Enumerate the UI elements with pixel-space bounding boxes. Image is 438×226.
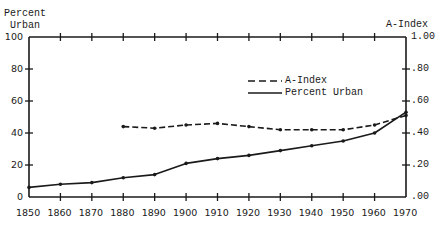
x-tick-label: 1950 (330, 207, 354, 218)
data-point (184, 162, 188, 166)
data-point (153, 173, 157, 177)
x-tick-label: 1970 (393, 207, 417, 218)
left-y-tick-label: 60 (11, 95, 23, 106)
x-tick-label: 1870 (79, 207, 103, 218)
right-y-tick-label: .40 (411, 127, 429, 138)
data-point (373, 131, 377, 135)
right-y-tick-label: .20 (411, 159, 429, 170)
x-tick-label: 1850 (16, 207, 40, 218)
data-point (279, 149, 283, 153)
data-point (184, 123, 188, 127)
line-chart (0, 0, 438, 226)
data-point (247, 125, 251, 129)
x-tick-label: 1860 (47, 207, 71, 218)
left-axis-title-line2: Urban (10, 20, 40, 31)
plot-frame (25, 33, 410, 201)
data-point (153, 126, 157, 130)
data-point (27, 186, 31, 190)
data-point (247, 154, 251, 158)
left-y-tick-label: 80 (11, 63, 23, 74)
data-point (121, 125, 125, 129)
a-index-line (123, 115, 406, 129)
x-tick-label: 1890 (142, 207, 166, 218)
data-point (373, 123, 377, 127)
right-y-tick-label: .00 (411, 191, 429, 202)
x-tick-label: 1930 (267, 207, 291, 218)
data-point (90, 181, 94, 185)
x-tick-label: 1900 (173, 207, 197, 218)
data-point (310, 144, 314, 148)
x-tick-label: 1960 (362, 207, 386, 218)
data-point (404, 110, 408, 114)
data-point (341, 128, 345, 132)
x-tick-label: 1910 (205, 207, 229, 218)
data-point (310, 128, 314, 132)
x-tick-label: 1940 (299, 207, 323, 218)
right-axis-title: A-Index (386, 19, 428, 30)
data-point (121, 176, 125, 180)
right-y-tick-label: .60 (411, 95, 429, 106)
data-point (341, 139, 345, 143)
data-point (279, 128, 283, 132)
series-layer (27, 110, 408, 189)
left-axis-title-line1: Percent (4, 8, 46, 19)
data-point (404, 114, 408, 118)
data-point (59, 182, 63, 186)
x-tick-label: 1920 (236, 207, 260, 218)
data-point (216, 157, 220, 161)
right-y-tick-label: .80 (411, 63, 429, 74)
data-point (216, 122, 220, 126)
legend-a-index-label: A-Index (285, 75, 327, 86)
legend-swatches (248, 81, 282, 93)
left-y-tick-label: 0 (17, 191, 23, 202)
left-y-tick-label: 20 (11, 159, 23, 170)
left-y-tick-label: 100 (5, 31, 23, 42)
legend-percent-urban-label: Percent Urban (285, 87, 363, 98)
left-y-tick-label: 40 (11, 127, 23, 138)
x-tick-label: 1880 (110, 207, 134, 218)
right-y-tick-label: 1.00 (411, 31, 435, 42)
